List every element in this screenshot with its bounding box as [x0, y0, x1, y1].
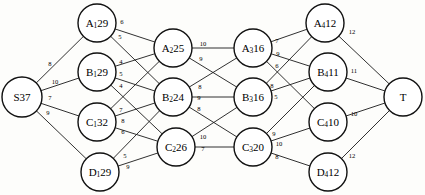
node-label-c2: C226: [165, 141, 188, 154]
edge-weight-b2-a3: 8: [198, 83, 202, 90]
node-a1[interactable]: A129: [78, 4, 116, 42]
node-d4[interactable]: D412: [309, 153, 347, 191]
node-label-a3: A316: [242, 42, 265, 55]
edge-b3-to-a4: [266, 37, 312, 84]
node-label-d1: D129: [89, 166, 112, 179]
edge-weight-s-a1: 8: [48, 60, 52, 67]
edge-weight-b1-c2: 4: [119, 82, 123, 89]
edge-weight-b2-c3: 8: [197, 105, 201, 112]
edge-b4-to-t: [346, 78, 385, 91]
edge-weight-c4-t: 10: [351, 110, 358, 117]
node-c2[interactable]: C226: [157, 128, 195, 166]
edge-s-to-a1: [36, 36, 83, 83]
node-label-b3: B316: [242, 91, 265, 104]
network-flow-diagram: S37A129B129C132D129A225B224C226A316B316C…: [0, 0, 425, 195]
edge-weight-a3-b4: 9: [276, 50, 280, 57]
node-b2[interactable]: B224: [154, 78, 192, 116]
node-c3[interactable]: C320: [234, 128, 272, 166]
edge-weight-a1-a2: 6: [120, 18, 124, 25]
node-b3[interactable]: B316: [234, 78, 272, 116]
edge-weight-b4-t: 11: [351, 67, 357, 74]
edge-weight-c3-b4: 9: [272, 130, 276, 137]
node-a2[interactable]: A225: [154, 29, 192, 67]
node-s[interactable]: S37: [2, 77, 42, 117]
edge-weight-s-d1: 9: [46, 109, 50, 116]
edge-weight-s-c1: 7: [48, 94, 52, 101]
edge-a3-to-c4: [267, 61, 315, 108]
node-label-c1: C132: [86, 116, 108, 129]
edge-b2-to-c3: [189, 107, 237, 137]
node-label-a1: A129: [86, 17, 109, 30]
edge-weight-c1-a2: 7: [119, 106, 123, 113]
edge-c1-to-a2: [111, 61, 160, 109]
edge-weight-d1-b2: 5: [123, 152, 127, 159]
edge-weight-a2-b3: 9: [199, 55, 203, 62]
edge-b3-to-b4: [271, 78, 310, 91]
nodes-layer: S37A129B129C132D129A225B224C226A316B316C…: [2, 4, 422, 191]
edge-c2-to-b3: [192, 107, 237, 136]
edge-weight-c2-b3: 10: [200, 133, 207, 140]
edges-layer: [36, 29, 389, 166]
edge-weight-d1-c2: 9: [126, 163, 130, 170]
node-label-c4: C410: [317, 116, 340, 129]
node-c1[interactable]: C132: [78, 103, 116, 141]
edge-weight-a3-a4: 7: [275, 37, 279, 44]
edge-weight-a4-t: 12: [349, 28, 356, 35]
node-c4[interactable]: C410: [309, 103, 347, 141]
edge-weight-a3-c4: 6: [275, 62, 279, 69]
node-label-b4: B411: [317, 66, 339, 79]
edge-s-to-b1: [41, 78, 79, 91]
node-t[interactable]: T: [384, 78, 422, 116]
edge-weight-d4-t: 12: [349, 152, 356, 159]
edge-weight-c1-b2: 8: [121, 117, 125, 124]
node-label-s: S37: [13, 91, 31, 103]
node-a4[interactable]: A412: [306, 4, 344, 42]
graph-canvas: S37A129B129C132D129A225B224C226A316B316C…: [0, 0, 425, 195]
edge-weight-s-b1: 10: [52, 78, 59, 85]
edge-weight-c2-c3: 7: [201, 145, 205, 152]
node-label-b2: B224: [162, 91, 185, 104]
node-label-a2: A225: [162, 42, 185, 55]
node-label-t: T: [400, 91, 407, 103]
node-label-d4: D412: [317, 166, 340, 179]
node-b4[interactable]: B411: [309, 53, 347, 91]
node-label-c3: C320: [242, 141, 265, 154]
node-label-a4: A412: [314, 17, 337, 30]
node-b1[interactable]: B129: [78, 53, 116, 91]
node-label-b1: B129: [86, 66, 109, 79]
edge-d1-to-b2: [113, 111, 160, 159]
edge-weight-a1-b2: 5: [118, 33, 122, 40]
node-d1[interactable]: D129: [81, 153, 119, 191]
edge-weight-b3-a4: 8: [270, 82, 274, 89]
edge-weight-c3-c4: 10: [276, 140, 283, 147]
edge-weight-a2-a3: 10: [200, 40, 207, 47]
node-a3[interactable]: A316: [234, 29, 272, 67]
edge-weight-b1-b2: 5: [119, 70, 123, 77]
edge-weight-b3-b4: 5: [274, 93, 278, 100]
